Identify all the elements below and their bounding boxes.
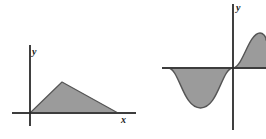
right-y-axis-label: y (236, 3, 240, 13)
shaded-sine-region (168, 33, 266, 108)
left-plot-panel: y x (0, 0, 140, 139)
figure-container: y x y (0, 0, 266, 139)
shaded-triangle-region (30, 82, 118, 113)
left-y-axis-label: y (32, 47, 36, 57)
left-x-axis-label: x (121, 115, 126, 125)
right-plot-panel: y (140, 0, 266, 139)
right-plot-graphic (140, 0, 266, 139)
left-plot-graphic (0, 0, 140, 139)
